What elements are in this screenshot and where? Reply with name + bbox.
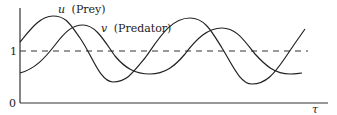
v-predator-label: v (Predator) bbox=[101, 22, 171, 35]
v-var: v bbox=[101, 22, 108, 35]
x-axis-label: τ bbox=[312, 103, 319, 115]
u-prey-label: u (Prey) bbox=[58, 3, 106, 16]
chart: 1 0 τ u (Prey) v (Predator) bbox=[0, 0, 337, 115]
v-name: (Predator) bbox=[114, 22, 172, 35]
y-tick-0: 0 bbox=[9, 97, 16, 110]
u-name: (Prey) bbox=[72, 3, 106, 16]
u-var: u bbox=[58, 3, 65, 16]
y-tick-1: 1 bbox=[10, 45, 17, 58]
